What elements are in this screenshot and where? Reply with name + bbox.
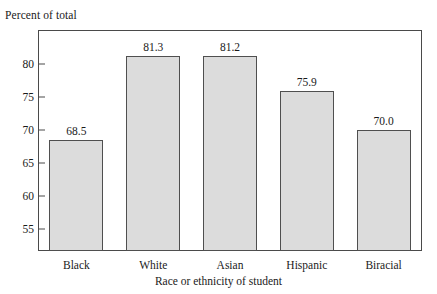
bar-value-label: 81.3 — [143, 41, 163, 53]
bar-value-label: 70.0 — [374, 115, 394, 127]
x-axis-category-label: Black — [63, 259, 90, 271]
bar-black — [49, 140, 103, 251]
x-axis-category-label: Biracial — [365, 259, 401, 271]
bar-asian — [203, 56, 257, 251]
bar-hispanic — [280, 91, 334, 251]
bars-layer: 68.5Black81.3White81.2Asian75.9Hispanic7… — [0, 0, 437, 294]
bar-biracial — [357, 130, 411, 251]
bar-value-label: 81.2 — [220, 41, 240, 53]
bar-value-label: 75.9 — [297, 76, 317, 88]
x-axis-category-label: Asian — [217, 259, 244, 271]
bar-value-label: 68.5 — [66, 125, 86, 137]
bar-white — [126, 56, 180, 251]
x-axis-title: Race or ethnicity of student — [0, 275, 437, 287]
x-axis-category-label: Hispanic — [286, 259, 327, 271]
x-axis-category-label: White — [139, 259, 167, 271]
bar-chart-figure: Percent of total 556065707580 68.5Black8… — [0, 0, 437, 294]
